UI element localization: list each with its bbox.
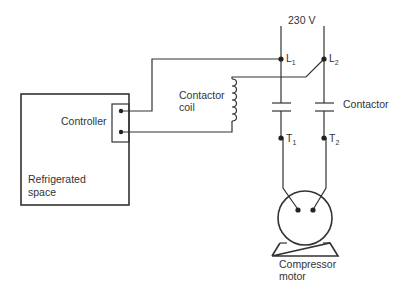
wire-controller-to-coil [121, 121, 232, 132]
contactor-coil [232, 79, 237, 121]
terminal-T1-label: T1 [286, 132, 296, 146]
controller-label: Controller [61, 115, 107, 127]
terminal-T2-dot [321, 135, 326, 140]
terminal-L2-label: L2 [329, 52, 339, 66]
motor-terminal-2 [310, 207, 315, 212]
supply-voltage-label: 230 V [288, 14, 315, 26]
contactor-label: Contactor [343, 98, 389, 110]
contactor-coil-label-line1: Contactor [179, 89, 225, 101]
refrigerated-space-label-line1: Refrigerated [28, 173, 86, 185]
terminal-T2-label: T2 [329, 132, 339, 146]
terminal-T1-dot [278, 135, 283, 140]
terminal-L2-dot [321, 56, 326, 61]
compressor-motor-label-line2: motor [279, 270, 306, 282]
terminal-L1-dot [278, 56, 283, 61]
motor-terminal-1 [295, 207, 300, 212]
controller-terminal-2 [119, 130, 123, 134]
wire-controller-to-L1 [121, 59, 281, 111]
refrigeration-wiring-diagram: 230 V L1 L2 T1 T2 Controller Refrigerate… [0, 0, 409, 290]
terminal-L1-label: L1 [286, 52, 296, 66]
refrigerated-space-label-line2: space [28, 186, 56, 198]
controller-terminal-1 [119, 109, 123, 113]
compressor-motor-circle [278, 191, 332, 245]
wire-coil-to-L2 [232, 59, 324, 79]
compressor-motor-label-line1: Compressor [279, 258, 337, 270]
contactor-coil-label-line2: coil [179, 101, 195, 113]
